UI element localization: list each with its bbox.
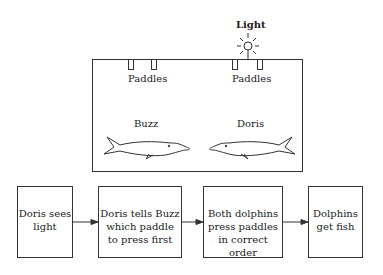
flow-step-line: get fish <box>313 220 358 233</box>
dolphin-buzz-label: Buzz <box>134 118 158 129</box>
paddle-left-2 <box>151 60 157 70</box>
paddle-right-1 <box>232 60 238 70</box>
flow-step-line: which paddle <box>100 220 179 233</box>
flow-step-doris-sees-light: Doris seeslight <box>17 186 73 258</box>
flow-step-line: Doris sees <box>19 207 71 220</box>
dolphin-doris-label: Doris <box>237 118 264 129</box>
pool-tank <box>92 59 303 172</box>
flow-step-line: light <box>19 220 71 233</box>
light-icon <box>237 33 259 59</box>
paddle-left-1 <box>128 60 134 70</box>
flow-step-line: Doris tells Buzz <box>100 207 179 220</box>
flow-step-both-press-paddles: Both dolphinspress paddlesin correct ord… <box>203 186 283 258</box>
flow-step-dolphins-get-fish: Dolphinsget fish <box>308 186 363 258</box>
paddles-left-label: Paddles <box>128 73 167 84</box>
flow-step-line: Both dolphins <box>204 207 282 220</box>
flow-step-line: to press first <box>100 233 179 246</box>
paddles-right-label: Paddles <box>232 73 271 84</box>
flow-step-doris-tells-buzz: Doris tells Buzzwhich paddleto press fir… <box>98 186 182 258</box>
paddle-right-2 <box>257 60 263 70</box>
flow-step-line: Dolphins <box>313 207 358 220</box>
flow-step-line: press paddles <box>204 220 282 233</box>
flow-step-line: in correct order <box>204 233 282 259</box>
